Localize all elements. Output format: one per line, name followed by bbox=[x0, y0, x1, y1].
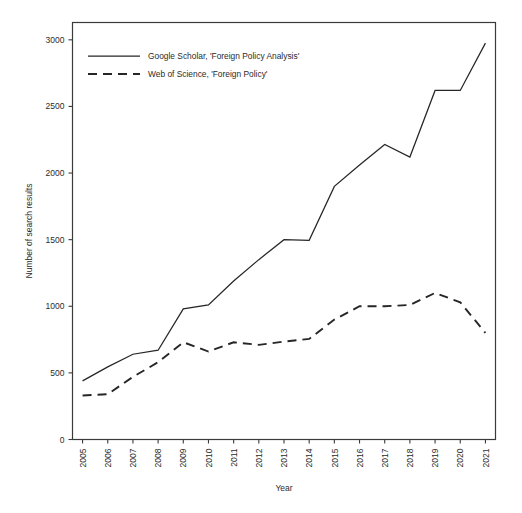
x-tick-label: 2013 bbox=[279, 448, 289, 467]
x-tick-label: 2012 bbox=[254, 448, 264, 467]
x-tick-label: 2008 bbox=[153, 448, 163, 467]
legend-label-web-of-science: Web of Science, 'Foreign Policy' bbox=[148, 69, 268, 79]
x-axis-title: Year bbox=[275, 483, 292, 493]
y-axis-title: Number of search results bbox=[24, 184, 34, 279]
legend: Google Scholar, 'Foreign Policy Analysis… bbox=[88, 51, 300, 79]
chart-container: 050010001500200025003000 200520062007200… bbox=[0, 0, 522, 513]
x-tick-label: 2014 bbox=[304, 448, 314, 467]
series-line-solid bbox=[83, 43, 486, 381]
line-chart: 050010001500200025003000 200520062007200… bbox=[0, 0, 522, 513]
x-tick-label: 2005 bbox=[78, 448, 88, 467]
series-line-dashed bbox=[83, 293, 486, 396]
x-tick-label: 2009 bbox=[178, 448, 188, 467]
x-tick-label: 2016 bbox=[355, 448, 365, 467]
y-tick-label: 0 bbox=[60, 435, 65, 445]
x-tick-label: 2021 bbox=[481, 448, 491, 467]
x-tick-label: 2010 bbox=[204, 448, 214, 467]
y-axis-ticks: 050010001500200025003000 bbox=[46, 35, 73, 445]
series-layer bbox=[83, 43, 486, 395]
y-tick-label: 1500 bbox=[46, 235, 65, 245]
y-tick-label: 2500 bbox=[46, 101, 65, 111]
x-axis-ticks: 2005200620072008200920102011201220132014… bbox=[78, 440, 491, 468]
y-tick-label: 3000 bbox=[46, 35, 65, 45]
x-tick-label: 2006 bbox=[103, 448, 113, 467]
plot-frame bbox=[73, 23, 496, 440]
y-tick-label: 2000 bbox=[46, 168, 65, 178]
x-tick-label: 2018 bbox=[405, 448, 415, 467]
y-tick-label: 1000 bbox=[46, 301, 65, 311]
x-tick-label: 2020 bbox=[455, 448, 465, 467]
legend-label-google-scholar: Google Scholar, 'Foreign Policy Analysis… bbox=[148, 51, 300, 61]
y-tick-label: 500 bbox=[50, 368, 64, 378]
x-tick-label: 2015 bbox=[330, 448, 340, 467]
x-tick-label: 2011 bbox=[229, 448, 239, 467]
x-tick-label: 2007 bbox=[128, 448, 138, 467]
x-tick-label: 2019 bbox=[430, 448, 440, 467]
x-tick-label: 2017 bbox=[380, 448, 390, 467]
